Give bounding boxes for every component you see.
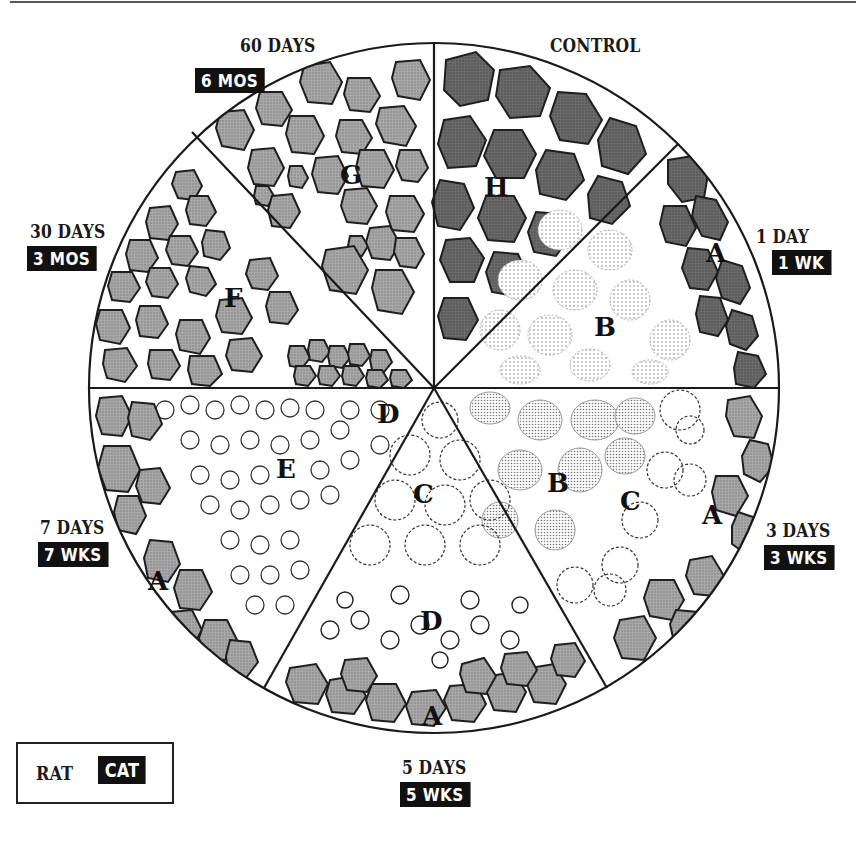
species-legend: RAT CAT	[16, 742, 174, 804]
sector-5-days	[286, 402, 585, 726]
label-7-days: 7 DAYS	[40, 516, 104, 538]
label-30-days: 30 DAYS	[30, 220, 105, 242]
regeneration-wheel-diagram: H A B B C A C D D A E A F G	[0, 0, 866, 847]
letter-c-5days: C	[413, 479, 434, 509]
letter-e: E	[276, 454, 296, 484]
tag-1-wk: 1 WK	[772, 250, 831, 275]
letter-g: G	[340, 160, 362, 190]
sector-7-days	[96, 396, 389, 678]
tag-3-wks: 3 WKS	[764, 545, 835, 570]
letter-h: H	[484, 172, 509, 202]
letter-a-5days: A	[421, 701, 443, 731]
label-3-days: 3 DAYS	[766, 519, 830, 541]
letter-a-1day: A	[705, 238, 727, 268]
letter-f: F	[224, 283, 243, 313]
letter-c-3days: C	[620, 486, 641, 516]
letter-a-3days: A	[701, 500, 723, 530]
sector-3-days	[470, 390, 774, 660]
legend-rat: RAT	[36, 762, 73, 784]
label-control: CONTROL	[550, 34, 640, 56]
letter-d-top: D	[377, 399, 400, 429]
label-60-days: 60 DAYS	[240, 34, 315, 56]
letter-b-1day: B	[594, 312, 616, 342]
tag-6-mos: 6 MOS	[195, 68, 265, 93]
letter-b-3days: B	[547, 468, 569, 498]
tag-7-wks: 7 WKS	[38, 542, 109, 567]
label-5-days: 5 DAYS	[402, 756, 466, 778]
letter-a-7days: A	[147, 566, 169, 596]
letter-d-5days: D	[420, 606, 443, 636]
label-1-day: 1 DAY	[756, 225, 809, 247]
legend-cat: CAT	[98, 756, 146, 784]
tag-5-wks: 5 WKS	[400, 782, 471, 807]
tag-3-mos: 3 MOS	[27, 246, 97, 271]
